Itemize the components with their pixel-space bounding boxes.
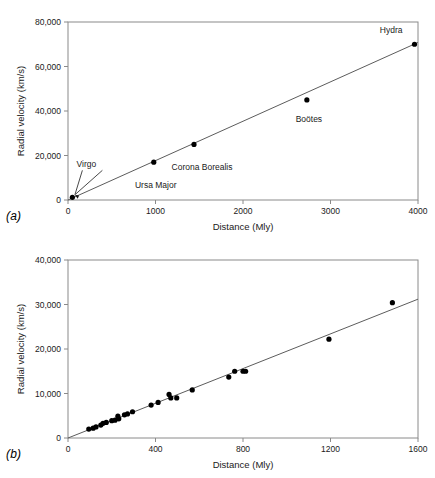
data-point xyxy=(156,400,161,405)
y-axis-title: Radial velocity (km/s) xyxy=(15,66,26,156)
y-tick-label: 20,000 xyxy=(35,151,61,161)
data-point xyxy=(232,369,237,374)
data-point xyxy=(190,387,195,392)
x-tick-label: 1200 xyxy=(321,444,340,454)
data-point xyxy=(326,337,331,342)
x-tick-label: 1000 xyxy=(146,206,165,216)
plot-frame xyxy=(68,22,418,200)
y-tick-label: 60,000 xyxy=(35,62,61,72)
data-point xyxy=(70,195,75,200)
chart-panel-a: 020,00040,00060,00080,000010002000300040… xyxy=(0,0,435,240)
y-tick-label: 10,000 xyxy=(35,389,61,399)
data-point xyxy=(151,160,156,165)
y-tick-label: 40,000 xyxy=(35,106,61,116)
regression-line xyxy=(68,42,418,200)
y-tick-label: 20,000 xyxy=(35,344,61,354)
data-point xyxy=(130,409,135,414)
data-point xyxy=(304,97,309,102)
hubble-diagram-figure: 020,00040,00060,00080,000010002000300040… xyxy=(0,0,435,478)
data-point xyxy=(125,411,130,416)
data-point xyxy=(191,142,196,147)
x-tick-label: 1600 xyxy=(409,444,428,454)
chart-panel-b: 010,00020,00030,00040,000040080012001600… xyxy=(0,238,435,478)
data-point-label: Virgo xyxy=(77,159,97,169)
data-point-label: Corona Borealis xyxy=(172,162,233,172)
data-point xyxy=(149,402,154,407)
data-point-label: Ursa Major xyxy=(135,180,177,190)
y-tick-label: 0 xyxy=(56,433,61,443)
x-tick-label: 0 xyxy=(66,444,71,454)
scatter-plot-b: 010,00020,00030,00040,000040080012001600… xyxy=(0,238,435,478)
panel-label-a: (a) xyxy=(6,209,21,223)
data-point xyxy=(86,427,91,432)
scatter-plot-a: 020,00040,00060,00080,000010002000300040… xyxy=(0,0,435,240)
data-point xyxy=(93,424,98,429)
x-tick-label: 0 xyxy=(66,206,71,216)
y-axis-title: Radial velocity (km/s) xyxy=(15,304,26,394)
data-point-label: Boötes xyxy=(296,114,322,124)
x-tick-label: 2000 xyxy=(234,206,253,216)
x-tick-label: 3000 xyxy=(321,206,340,216)
y-tick-label: 80,000 xyxy=(35,17,61,27)
x-tick-label: 400 xyxy=(148,444,162,454)
panel-label-b: (b) xyxy=(6,447,21,461)
y-tick-label: 0 xyxy=(56,195,61,205)
x-axis-title: Distance (Mly) xyxy=(213,459,274,470)
data-point xyxy=(104,420,109,425)
data-point xyxy=(390,300,395,305)
x-axis-title: Distance (Mly) xyxy=(213,221,274,232)
data-point xyxy=(243,369,248,374)
data-point-label: Hydra xyxy=(380,25,403,35)
data-point xyxy=(116,416,121,421)
data-point xyxy=(226,374,231,379)
data-point xyxy=(174,395,179,400)
y-tick-label: 30,000 xyxy=(35,300,61,310)
x-tick-label: 800 xyxy=(236,444,250,454)
plot-frame xyxy=(68,260,418,438)
data-point xyxy=(168,395,173,400)
x-tick-label: 4000 xyxy=(409,206,428,216)
y-tick-label: 40,000 xyxy=(35,255,61,265)
data-point xyxy=(412,42,417,47)
